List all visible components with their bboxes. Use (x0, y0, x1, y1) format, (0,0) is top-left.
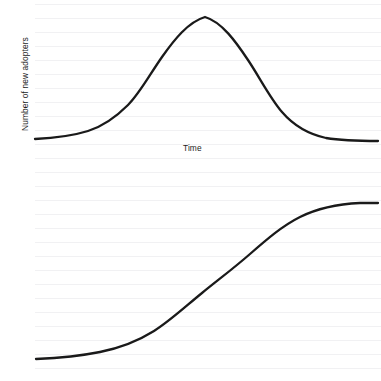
chart-new-adopters: Number of new adopters Time (0, 0, 381, 165)
bell-curve-path (35, 17, 378, 141)
chart-cumulative-adopters: Cumulative number of new adopters Time (0, 178, 381, 381)
figure-container: Number of new adopters Time Cumulative n… (0, 0, 381, 381)
y-axis-label-new-adopters: Number of new adopters (20, 37, 30, 131)
x-axis-label-time-top: Time (183, 143, 202, 153)
bell-curve-plot (0, 0, 381, 165)
s-curve-path (36, 203, 378, 359)
s-curve-plot (0, 178, 381, 381)
